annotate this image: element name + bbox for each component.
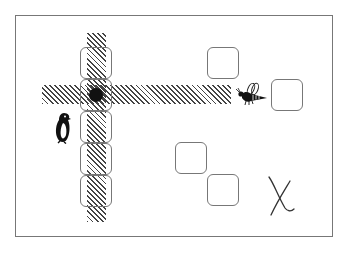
bee-icon[interactable] <box>236 82 268 110</box>
ball-token[interactable] <box>89 88 103 102</box>
cell-top-right[interactable] <box>207 47 239 79</box>
cell-col-3[interactable] <box>80 111 112 143</box>
cell-right[interactable] <box>271 79 303 111</box>
cell-lower-a[interactable] <box>175 142 207 174</box>
penguin-icon[interactable] <box>54 112 72 148</box>
cell-col-1[interactable] <box>80 47 112 79</box>
cell-lower-b[interactable] <box>207 174 239 206</box>
x-mark-icon: X <box>265 174 295 222</box>
cell-col-4[interactable] <box>80 143 112 175</box>
horizontal-beam <box>42 85 231 104</box>
cell-col-5[interactable] <box>80 175 112 207</box>
